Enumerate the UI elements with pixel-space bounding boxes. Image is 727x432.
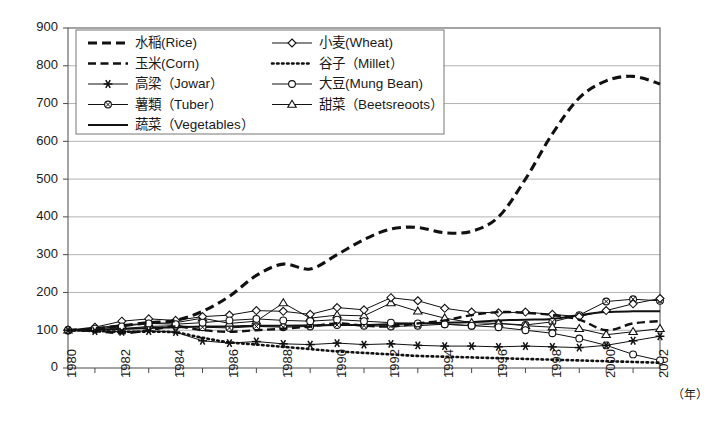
data-point-marker [306, 310, 314, 318]
legend-label-mungbean: 大豆(Mung Bean) [319, 76, 423, 91]
x-tick-label: 1980 [64, 349, 79, 378]
y-tick-label: 400 [36, 208, 58, 223]
x-axis-unit-label: （年） [672, 388, 708, 402]
legend-label-wheat: 小麦(Wheat) [319, 35, 393, 50]
y-tick-label: 300 [36, 246, 58, 261]
x-tick-label: 1992 [387, 349, 402, 378]
x-tick-label: 1990 [334, 349, 349, 378]
data-point-marker [549, 330, 556, 337]
legend-label-beetroots: 甜菜（Beetsreoots） [319, 97, 443, 112]
chart-container: 0100200300400500600700800900 19801982198… [0, 0, 727, 432]
legend-label-rice: 水稲(Rice) [135, 35, 197, 50]
data-point-marker [361, 318, 368, 325]
legend-label-vegetables: 蔬菜（Vegetables） [135, 117, 254, 132]
y-axis-ticks: 0100200300400500600700800900 [36, 19, 68, 374]
legend-label-tuber: 薯類（Tuber） [135, 97, 222, 112]
data-point-marker [414, 297, 422, 305]
x-tick-label: 1998 [549, 349, 564, 378]
data-point-marker [575, 325, 583, 332]
data-point-marker [333, 304, 341, 312]
y-tick-label: 800 [36, 57, 58, 72]
y-tick-label: 900 [36, 19, 58, 34]
x-tick-label: 1994 [441, 349, 456, 378]
x-tick-label: 1982 [118, 349, 133, 378]
data-point-marker [630, 351, 637, 358]
x-tick-label: 1986 [226, 349, 241, 378]
y-tick-label: 600 [36, 133, 58, 148]
y-tick-label: 100 [36, 322, 58, 337]
data-point-marker [495, 324, 502, 331]
x-tick-label: 1996 [495, 349, 510, 378]
line-chart: 0100200300400500600700800900 19801982198… [0, 0, 727, 432]
data-point-marker [289, 81, 296, 88]
data-point-marker [252, 307, 260, 315]
data-point-marker [360, 306, 368, 314]
series-line [68, 330, 660, 362]
axis-unit-group: （年） [672, 388, 708, 402]
data-point-marker [576, 335, 583, 342]
data-point-marker [279, 299, 287, 306]
y-tick-label: 200 [36, 284, 58, 299]
y-tick-label: 700 [36, 95, 58, 110]
legend-group: 水稲(Rice)小麦(Wheat)玉米(Corn)谷子（Millet）高梁（Jo… [76, 30, 444, 134]
data-point-marker [280, 317, 287, 324]
data-point-marker [656, 325, 664, 332]
data-point-marker [468, 322, 475, 329]
x-tick-label: 1984 [172, 349, 187, 378]
data-point-marker [388, 319, 395, 326]
series-millet [68, 330, 660, 362]
data-point-marker [602, 307, 610, 315]
data-point-marker [441, 304, 449, 312]
data-point-marker [334, 316, 341, 323]
x-tick-label: 2000 [603, 349, 618, 378]
y-tick-label: 500 [36, 171, 58, 186]
legend-label-corn: 玉米(Corn) [135, 56, 199, 71]
legend-label-jowar: 高梁（Jowar） [135, 75, 223, 91]
x-tick-label: 1988 [280, 349, 295, 378]
data-point-marker [279, 307, 287, 315]
data-point-marker [226, 317, 233, 324]
data-point-marker [253, 315, 260, 322]
data-point-marker [522, 327, 529, 334]
data-point-marker [387, 294, 395, 302]
data-point-marker [199, 319, 206, 326]
y-tick-label: 0 [51, 359, 58, 374]
legend-label-millet: 谷子（Millet） [319, 56, 403, 71]
data-point-marker [307, 318, 314, 325]
